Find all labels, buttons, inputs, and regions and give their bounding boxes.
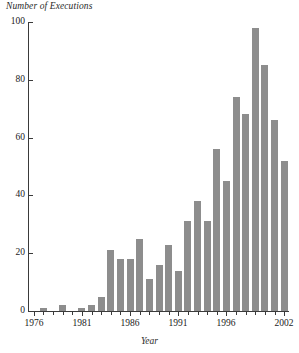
y-tick: 20 [29, 253, 33, 254]
x-tick-label: 1996 [217, 318, 236, 328]
y-tick: 100 [29, 22, 33, 23]
bar [252, 28, 259, 311]
bar [223, 181, 230, 311]
x-tick-mark [53, 311, 54, 315]
x-tick-mark [72, 311, 73, 315]
bar [88, 305, 95, 311]
x-axis-title: Year [0, 336, 299, 346]
y-tick: 60 [29, 138, 33, 139]
y-tick: 0 [29, 311, 33, 312]
y-tick-mark [29, 22, 33, 23]
x-tick-mark [226, 311, 227, 316]
x-tick-mark [92, 311, 93, 315]
x-tick-mark [198, 311, 199, 315]
x-tick-mark [188, 311, 189, 315]
x-tick-mark [120, 311, 121, 315]
y-axis-line [28, 22, 29, 311]
x-tick-mark [111, 311, 112, 315]
x-tick-mark [63, 311, 64, 315]
bar [98, 297, 105, 311]
x-tick-mark [130, 311, 131, 316]
bar [117, 259, 124, 311]
y-tick-label: 60 [16, 132, 26, 142]
x-tick-label: 2002 [275, 318, 294, 328]
y-tick-mark [29, 195, 33, 196]
x-tick-mark [265, 311, 266, 315]
y-tick-mark [29, 311, 33, 312]
bar [184, 221, 191, 311]
bar [204, 221, 211, 311]
bar [127, 259, 134, 311]
bar [107, 250, 114, 311]
y-tick-label: 40 [16, 189, 26, 199]
x-tick-mark [284, 311, 285, 316]
x-tick-mark [178, 311, 179, 316]
bar [242, 114, 249, 311]
y-tick: 80 [29, 80, 33, 81]
bar [136, 239, 143, 311]
bar [271, 120, 278, 311]
x-tick-mark [207, 311, 208, 315]
bar [281, 161, 288, 311]
y-tick-label: 20 [16, 247, 26, 257]
x-tick-mark [246, 311, 247, 315]
executions-bar-chart: Number of Executions 020406080100 197619… [0, 0, 299, 353]
x-tick-mark [159, 311, 160, 315]
y-tick-mark [29, 138, 33, 139]
x-tick-mark [255, 311, 256, 315]
x-tick-mark [169, 311, 170, 315]
x-tick-mark [140, 311, 141, 315]
x-tick-label: 1981 [73, 318, 92, 328]
bar [233, 97, 240, 311]
bar [156, 265, 163, 311]
bar [146, 279, 153, 311]
bar [194, 201, 201, 311]
y-tick-mark [29, 80, 33, 81]
x-tick-mark [217, 311, 218, 315]
y-tick-label: 100 [11, 16, 25, 26]
bar [213, 149, 220, 311]
plot-area: 020406080100 197619811986199119962002 [28, 22, 288, 311]
x-tick-mark [275, 311, 276, 315]
bar [78, 308, 85, 311]
bar [175, 271, 182, 311]
x-tick-mark [149, 311, 150, 315]
x-tick-mark [101, 311, 102, 315]
bar [40, 308, 47, 311]
x-tick-label: 1976 [25, 318, 44, 328]
x-tick-label: 1986 [121, 318, 140, 328]
x-tick-mark [43, 311, 44, 315]
bar [165, 245, 172, 311]
x-tick-mark [236, 311, 237, 315]
x-tick-mark [34, 311, 35, 316]
bar [261, 65, 268, 311]
bar [59, 305, 66, 311]
x-tick-label: 1991 [169, 318, 188, 328]
y-tick-label: 0 [20, 305, 25, 315]
y-tick-mark [29, 253, 33, 254]
x-tick-mark [82, 311, 83, 316]
y-tick: 40 [29, 195, 33, 196]
y-axis-title: Number of Executions [6, 1, 92, 11]
y-tick-label: 80 [16, 74, 26, 84]
